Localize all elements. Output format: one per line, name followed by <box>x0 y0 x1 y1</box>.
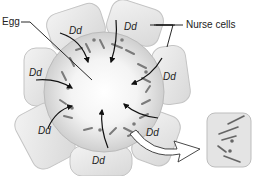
egg-label: Egg <box>2 16 20 27</box>
genotype-label: Dd <box>38 125 51 136</box>
genotype-label: Dd <box>163 71 176 82</box>
genotype-label: Dd <box>69 25 82 36</box>
nurse-cells-label: Nurse cells <box>186 19 235 30</box>
magnified-inset <box>207 113 251 167</box>
genotype-label: Dd <box>146 127 159 138</box>
genotype-label: Dd <box>29 67 42 78</box>
nurse-cell-diagram: Egg Nurse cells Dd Dd Dd Dd Dd Dd Dd <box>0 0 259 176</box>
genotype-label: Dd <box>92 155 105 166</box>
genotype-label: Dd <box>124 21 137 32</box>
